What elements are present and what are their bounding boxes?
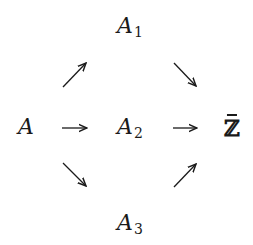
arrow-a-to-a1 — [63, 63, 86, 87]
arrow-a1-to-zbar — [174, 63, 196, 86]
arrows-layer — [0, 0, 253, 245]
arrow-a-to-a3 — [63, 163, 86, 186]
arrow-a3-to-zbar — [174, 164, 196, 187]
